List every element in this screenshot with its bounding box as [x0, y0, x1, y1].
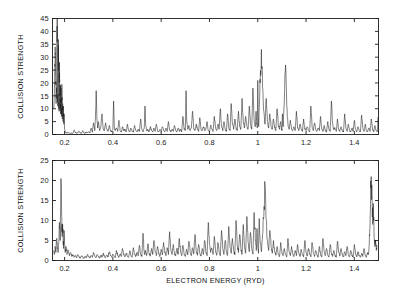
x-tick-label: 1 [256, 138, 260, 147]
x-tick-label: 1.4 [349, 264, 359, 273]
x-tick-label: 0.6 [156, 264, 166, 273]
x-tick-label: 0.2 [59, 264, 69, 273]
x-tick-label: 0.2 [59, 138, 69, 147]
bottom-panel-plot: 0.20.40.60.811.21.40510152025COLLISION S… [0, 148, 397, 295]
data-series-line [54, 177, 377, 259]
y-tick-label: 10 [40, 104, 48, 113]
x-tick-label: 1.4 [349, 138, 359, 147]
y-axis-title: COLLISION STRENGTH [16, 34, 25, 118]
y-tick-label: 15 [40, 92, 48, 101]
top-panel: 0.20.40.60.811.21.4051015202530354045COL… [0, 0, 397, 150]
y-tick-label: 30 [40, 53, 48, 62]
x-tick-label: 1 [256, 264, 260, 273]
y-tick-label: 25 [40, 66, 48, 75]
y-tick-label: 5 [44, 117, 48, 126]
x-tick-label: 1.2 [301, 264, 311, 273]
bottom-panel: 0.20.40.60.811.21.40510152025COLLISION S… [0, 148, 397, 295]
y-tick-label: 10 [40, 216, 48, 225]
y-tick-label: 20 [40, 79, 48, 88]
x-tick-label: 0.6 [156, 138, 166, 147]
y-tick-label: 0 [44, 256, 48, 265]
y-tick-label: 20 [40, 176, 48, 185]
x-axis-title: ELECTRON ENERGY (RYD) [166, 276, 264, 285]
y-tick-label: 15 [40, 196, 48, 205]
x-tick-label: 1.2 [301, 138, 311, 147]
x-tick-label: 0.4 [108, 264, 118, 273]
y-tick-label: 0 [44, 130, 48, 139]
x-tick-label: 0.8 [204, 138, 214, 147]
data-series-line [54, 18, 379, 134]
y-tick-label: 5 [44, 236, 48, 245]
plot-frame [53, 161, 379, 261]
y-tick-label: 25 [40, 156, 48, 165]
y-tick-label: 45 [40, 14, 48, 23]
top-panel-plot: 0.20.40.60.811.21.4051015202530354045COL… [0, 0, 397, 150]
y-tick-label: 40 [40, 27, 48, 36]
y-axis-title: COLLISION STRENGTH [16, 168, 25, 252]
x-tick-label: 0.8 [204, 264, 214, 273]
y-tick-label: 35 [40, 40, 48, 49]
figure-container: 0.20.40.60.811.21.4051015202530354045COL… [0, 0, 397, 295]
x-tick-label: 0.4 [108, 138, 118, 147]
